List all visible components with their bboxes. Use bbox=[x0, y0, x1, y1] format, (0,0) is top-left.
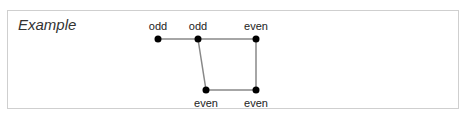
node-label: even bbox=[244, 20, 268, 32]
node-label: even bbox=[194, 97, 218, 109]
graph-node bbox=[253, 87, 260, 94]
graph-edge bbox=[198, 39, 206, 90]
node-label: odd bbox=[149, 20, 167, 32]
graph-node bbox=[155, 36, 162, 43]
graph-node bbox=[203, 87, 210, 94]
graph-node bbox=[195, 36, 202, 43]
graph-node bbox=[253, 36, 260, 43]
node-label: even bbox=[244, 97, 268, 109]
node-label: odd bbox=[189, 20, 207, 32]
graph-diagram: oddoddeveneveneven bbox=[0, 0, 467, 115]
